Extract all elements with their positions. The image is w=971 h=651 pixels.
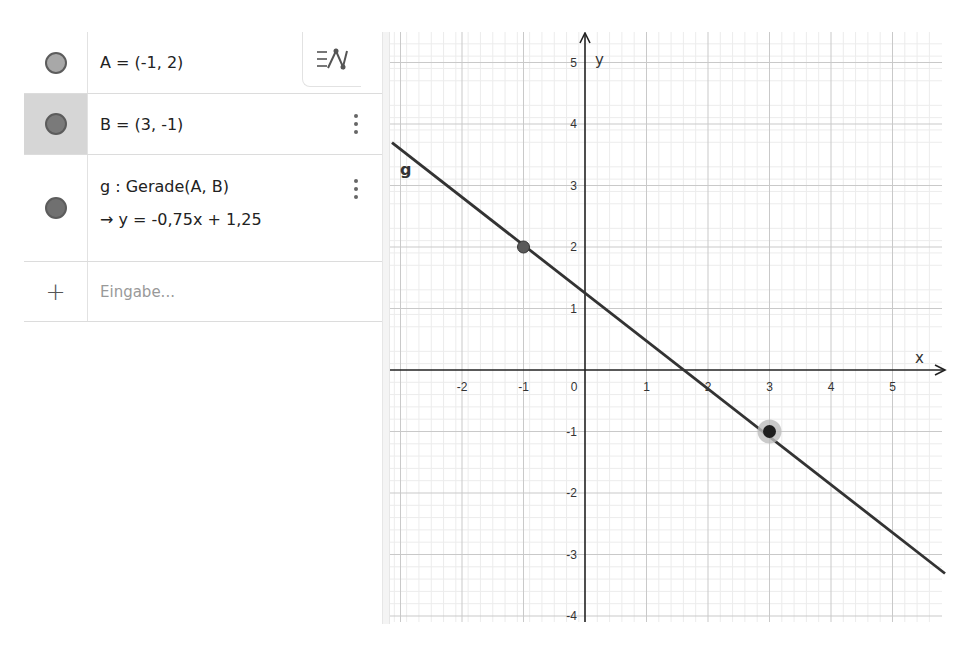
minor-grid [390,32,942,622]
output-g: → y = -0,75x + 1,25 [100,210,382,229]
marble-icon[interactable] [45,52,67,74]
more-options-icon[interactable] [354,114,358,134]
x-tick: 0 [571,380,578,394]
x-axis-label: x [915,349,924,367]
y-tick: 1 [570,302,577,316]
algebra-item-g[interactable]: g : Gerade(A, B) → y = -0,75x + 1,25 [24,155,382,262]
y-tick-labels: 5 4 3 2 1 -1 -2 -3 -4 [566,56,577,624]
axes [390,33,945,622]
point-A[interactable] [518,241,530,253]
visibility-toggle-B[interactable] [24,94,88,154]
y-tick: 3 [570,179,577,193]
visibility-toggle-A[interactable] [24,32,88,93]
x-tick: 3 [766,380,773,394]
algebra-item-B[interactable]: B = (3, -1) [24,94,382,155]
input-row[interactable]: + Eingabe... [24,262,382,322]
y-axis-label: y [595,51,604,69]
more-options-icon[interactable] [354,179,358,199]
marble-icon[interactable] [45,197,67,219]
plus-icon[interactable]: + [45,278,65,306]
algebra-description-toggle-button[interactable] [302,32,361,87]
marble-icon[interactable] [45,113,67,135]
line-label-g[interactable]: g [400,160,411,179]
x-tick: -2 [457,380,468,394]
definition-g[interactable]: g : Gerade(A, B) [100,177,382,196]
y-tick: -1 [566,425,577,439]
y-tick: 4 [570,117,577,131]
input-bar[interactable]: Eingabe... [100,283,382,301]
x-tick: 5 [889,380,896,394]
x-tick: -1 [518,380,529,394]
algebra-description-toggle-icon [315,46,349,72]
point-B[interactable] [763,425,776,438]
graphics-view[interactable]: x y -2 -1 0 1 2 3 4 5 5 4 3 2 1 -1 -2 -3… [390,32,971,632]
coordinate-plane[interactable]: x y -2 -1 0 1 2 3 4 5 5 4 3 2 1 -1 -2 -3… [390,32,971,632]
y-tick: -3 [566,548,577,562]
y-tick: 5 [570,56,577,70]
y-tick: -4 [566,609,577,623]
definition-B[interactable]: B = (3, -1) [100,115,382,134]
x-tick: 4 [828,380,835,394]
visibility-toggle-g[interactable] [24,155,88,261]
y-tick: -2 [566,486,577,500]
line-g[interactable] [392,143,945,574]
panel-divider[interactable] [382,32,390,624]
y-tick: 2 [570,240,577,254]
x-tick: 1 [643,380,650,394]
